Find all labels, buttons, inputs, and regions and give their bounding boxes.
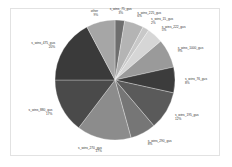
slice-percent: 8%	[185, 81, 190, 85]
slice-percent: 17%	[95, 149, 102, 153]
slice-percent: 8%	[148, 142, 153, 146]
pie-chart: s_wins_75_gus3%s_wins_225_gus6%s_wins_15…	[0, 0, 232, 167]
slice-percent: 3%	[118, 11, 123, 15]
slice-percent: 20%	[49, 45, 56, 49]
slice-percent: 2%	[151, 21, 156, 25]
slice-percent: 12%	[175, 117, 182, 121]
slice-percent: 9%	[93, 13, 98, 17]
slice-percent: 6%	[137, 14, 142, 18]
pie-slices	[55, 20, 175, 140]
slice-percent: 17%	[46, 112, 53, 116]
slice-percent: 9%	[178, 49, 183, 53]
slice-percent: 5%	[162, 28, 167, 32]
